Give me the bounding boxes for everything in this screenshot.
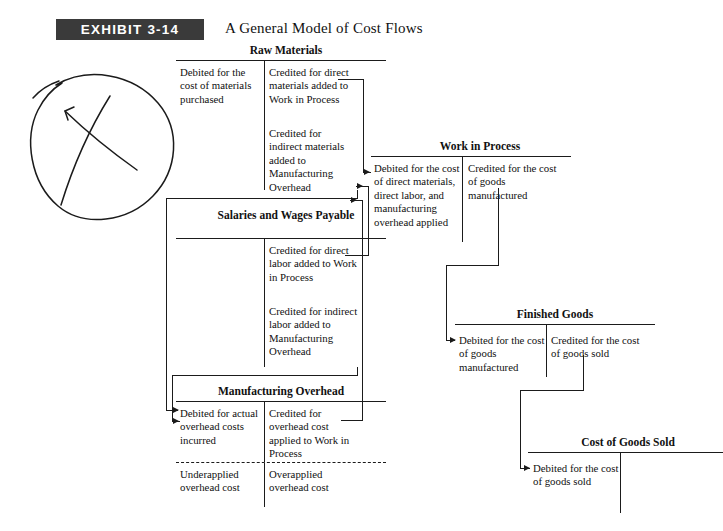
account-rule-salaries-and-wages-payable: [176, 238, 386, 239]
account-divider-work-in-process: [462, 157, 463, 242]
exhibit-diagram-canvas: EXHIBIT 3-14 A General Model of Cost Flo…: [0, 0, 723, 531]
connector-wages-to-wip-h1: [345, 255, 369, 256]
connector-fg-to-cogs-h1: [520, 390, 584, 391]
raw-materials-credit-entry-1: Credited for direct materials added to W…: [269, 66, 355, 106]
account-rule-work-in-process: [371, 156, 571, 157]
connector-raw-materials-to-moh-v2: [166, 198, 167, 411]
connector-raw-materials-to-wip-h1: [338, 79, 364, 80]
work-in-process-debit-entry-1: Debited for the cost of direct materials…: [374, 162, 460, 229]
connector-wip-to-fg-h1: [446, 265, 499, 266]
manufacturing-overhead-underapplied: Underapplied overhead cost: [180, 468, 266, 495]
raw-materials-debit-entry-1: Debited for the cost of materials purcha…: [180, 66, 262, 106]
connector-raw-materials-to-moh-h1: [166, 198, 358, 199]
account-dashed-rule-manufacturing-overhead: [176, 462, 386, 463]
connector-wages-to-moh-h1: [172, 375, 358, 376]
account-title-cost-of-goods-sold: Cost of Goods Sold: [533, 436, 723, 449]
account-title-raw-materials: Raw Materials: [186, 44, 386, 57]
exhibit-title: A General Model of Cost Flows: [225, 20, 423, 37]
salaries-and-wages-payable-credit-entry-1: Credited for direct labor added to Work …: [269, 244, 359, 284]
manufacturing-overhead-overapplied: Overapplied overhead cost: [269, 468, 359, 495]
account-title-work-in-process: Work in Process: [385, 140, 575, 153]
finished-goods-debit-entry-1: Debited for the cost of goods manufactur…: [459, 334, 545, 374]
finished-goods-credit-entry-1: Credited for the cost of goods sold: [551, 334, 641, 361]
arrowhead-wages-to-wip: [357, 183, 363, 189]
connector-fg-to-cogs-v2: [520, 390, 521, 469]
arrowhead-moh-to-wip: [351, 197, 357, 203]
account-title-salaries-and-wages-payable: Salaries and Wages Payable: [186, 209, 386, 222]
account-divider-cost-of-goods-sold: [620, 453, 621, 513]
connector-moh-to-wip-v: [362, 200, 363, 421]
connector-moh-to-wip-h1: [341, 420, 363, 421]
arrowhead-wages-to-moh: [173, 418, 179, 424]
account-divider-salaries-and-wages-payable: [264, 239, 265, 367]
arrowhead-wip-to-fg: [450, 337, 456, 343]
connector-wip-to-fg-v1: [498, 188, 499, 266]
exhibit-badge: EXHIBIT 3-14: [56, 19, 204, 40]
work-in-process-credit-entry-1: Credited for the cost of goods manufactu…: [468, 162, 558, 202]
manufacturing-overhead-debit-entry-1: Debited for actual overhead costs incurr…: [180, 407, 266, 447]
account-title-finished-goods: Finished Goods: [460, 308, 650, 321]
connector-wages-to-moh-v2: [172, 375, 173, 422]
account-title-manufacturing-overhead: Manufacturing Overhead: [176, 385, 386, 398]
account-divider-finished-goods: [546, 325, 547, 377]
arrowhead-raw-materials-to-wip: [364, 169, 370, 175]
connector-wip-to-fg-v2: [446, 265, 447, 341]
cost-of-goods-sold-debit-entry-1: Debited for the cost of goods sold: [533, 462, 619, 489]
account-rule-manufacturing-overhead: [176, 401, 386, 402]
arrowhead-raw-materials-to-moh: [173, 407, 179, 413]
connector-raw-materials-to-wip-v: [363, 79, 364, 173]
salaries-and-wages-payable-credit-entry-2: Credited for indirect labor added to Man…: [269, 305, 359, 359]
account-divider-raw-materials: [264, 61, 265, 190]
account-rule-raw-materials: [176, 60, 386, 61]
raw-materials-credit-entry-2: Credited for indirect materials added to…: [269, 127, 355, 194]
account-rule-finished-goods: [455, 324, 655, 325]
exhibit-badge-label: EXHIBIT 3-14: [56, 19, 204, 40]
account-rule-cost-of-goods-sold: [528, 452, 723, 453]
arrowhead-fg-to-cogs: [524, 465, 530, 471]
connector-wages-to-wip-v: [368, 186, 369, 256]
connector-fg-to-cogs-v1: [583, 355, 584, 391]
manufacturing-overhead-credit-entry-1: Credited for overhead cost applied to Wo…: [269, 407, 359, 461]
